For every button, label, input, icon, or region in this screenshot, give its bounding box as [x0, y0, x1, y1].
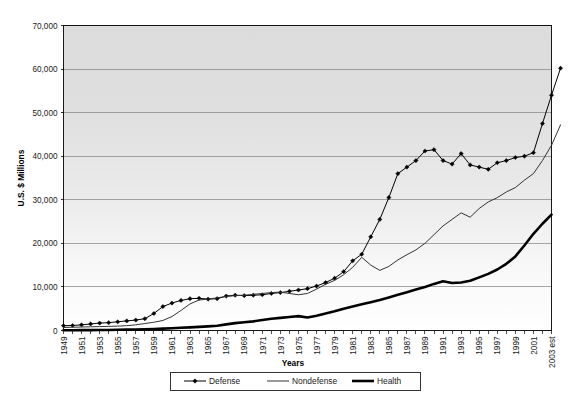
x-tick-label: 1969	[240, 336, 249, 355]
x-tick-label: 1955	[114, 336, 123, 355]
x-tick-label: 1973	[277, 336, 286, 355]
y-tick-label: 30,000	[32, 196, 57, 205]
x-tick-label: 1983	[367, 336, 376, 355]
legend-label-health: Health	[377, 376, 402, 386]
data-point	[558, 66, 562, 70]
plot-background	[64, 26, 552, 331]
legend-label-nondefense: Nondefense	[292, 376, 338, 386]
y-tick-label: 70,000	[32, 22, 57, 31]
x-tick-label: 1951	[78, 336, 87, 355]
x-tick-label: 1965	[204, 336, 213, 355]
y-tick-label: 20,000	[32, 239, 57, 248]
x-tick-label: 1981	[349, 336, 358, 355]
x-tick-label: 1953	[96, 336, 105, 355]
x-tick-label: 1961	[168, 336, 177, 355]
x-tick-label: 1971	[259, 336, 268, 355]
y-axis-ticks: 010,00020,00030,00040,00050,00060,00070,…	[32, 22, 63, 336]
x-tick-label: 1997	[493, 336, 502, 355]
chart-container: 010,00020,00030,00040,00050,00060,00070,…	[0, 0, 574, 408]
x-tick-label: 1991	[439, 336, 448, 355]
x-axis-title: Years	[282, 358, 305, 368]
y-tick-label: 40,000	[32, 152, 57, 161]
x-tick-label: 1963	[186, 336, 195, 355]
x-tick-label: 2003 est	[548, 336, 557, 368]
x-tick-label: 1987	[403, 336, 412, 355]
y-tick-label: 10,000	[32, 283, 57, 292]
y-tick-label: 50,000	[32, 109, 57, 118]
chart-legend: DefenseNondefenseHealth	[170, 372, 420, 390]
y-axis-title: U.S. $ Millions	[16, 149, 26, 206]
x-axis-ticks: 1949195119531955195719591961196319651967…	[60, 331, 557, 368]
legend-label-defense: Defense	[209, 376, 241, 386]
y-tick-label: 0	[53, 327, 58, 336]
x-tick-label: 2001	[530, 336, 539, 355]
x-tick-label: 1975	[295, 336, 304, 355]
x-tick-label: 1995	[475, 336, 484, 355]
x-tick-label: 1989	[421, 336, 430, 355]
x-tick-label: 1985	[385, 336, 394, 355]
x-tick-label: 1959	[150, 336, 159, 355]
x-tick-label: 1967	[222, 336, 231, 355]
x-tick-label: 1999	[512, 336, 521, 355]
y-tick-label: 60,000	[32, 65, 57, 74]
x-tick-label: 1977	[313, 336, 322, 355]
x-axis-title-text: Years	[282, 358, 305, 368]
line-chart: 010,00020,00030,00040,00050,00060,00070,…	[0, 0, 574, 408]
x-tick-label: 1949	[60, 336, 69, 355]
y-axis-title-text: U.S. $ Millions	[16, 149, 26, 206]
x-tick-label: 1957	[132, 336, 141, 355]
x-tick-label: 1993	[457, 336, 466, 355]
x-tick-label: 1979	[331, 336, 340, 355]
